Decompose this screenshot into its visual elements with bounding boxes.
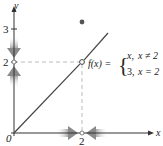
function-label: f(x) = — [88, 58, 111, 70]
case-1-value: x, — [126, 50, 134, 61]
case-1-condition: x ≠ 2 — [137, 50, 158, 61]
filled-dot-point — [80, 20, 85, 25]
x-axis-arrow-icon — [148, 131, 154, 136]
limit-diagram: y x 3 2 0 2 f(x) = { x, x ≠ 2 3, x = 2 — [0, 0, 163, 146]
case-2-condition: x = 2 — [137, 66, 159, 77]
graph-line-upper — [84, 33, 108, 60]
y-axis-label: y — [13, 0, 19, 11]
origin-label: 0 — [6, 132, 12, 144]
y-axis-open-circle — [12, 60, 16, 64]
graph-line — [14, 64, 80, 133]
case-2-value: 3, — [127, 66, 135, 77]
y-tick-label-2: 2 — [3, 56, 9, 68]
open-circle-point — [80, 60, 85, 65]
x-axis-label: x — [155, 127, 161, 138]
y-tick-label-3: 3 — [3, 23, 9, 35]
x-tick-label-2: 2 — [79, 135, 85, 146]
